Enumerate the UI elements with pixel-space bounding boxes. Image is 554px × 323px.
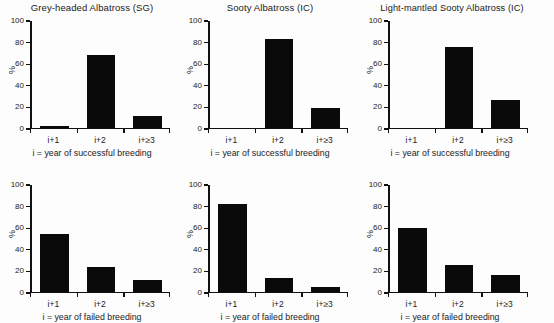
x-axis-line [30, 128, 170, 130]
bar [311, 108, 340, 127]
panel-sooty-albatross-ic-failed: % 020406080100i+1i+2i+≥3 i = year of fai… [178, 161, 362, 322]
y-axis-tick [384, 184, 388, 185]
x-axis-caption: i = year of successful breeding [0, 148, 184, 158]
x-axis-tick [435, 293, 436, 297]
y-axis-tick-label: 100 [369, 181, 382, 189]
y-axis-tick-label: 40 [373, 246, 382, 254]
x-axis-line [388, 292, 528, 294]
x-axis-tick [169, 293, 170, 297]
y-axis-tick-label: 40 [193, 82, 202, 90]
y-axis-tick-label: 60 [15, 60, 24, 68]
bar-group [32, 185, 171, 292]
y-axis-tick [26, 107, 30, 108]
bar [445, 265, 474, 292]
x-axis-tick [123, 129, 124, 133]
y-axis-tick [384, 107, 388, 108]
x-axis-line [388, 128, 528, 130]
x-axis-tick [123, 293, 124, 297]
x-axis-caption: i = year of failed breeding [178, 312, 362, 322]
y-axis-tick-label: 20 [373, 103, 382, 111]
x-axis-tick [208, 293, 209, 297]
y-axis-tick-label: 60 [193, 224, 202, 232]
y-axis-tick-label: 100 [11, 17, 24, 25]
y-axis-tick-label: 80 [15, 39, 24, 47]
x-axis-caption: i = year of successful breeding [358, 148, 542, 158]
bar [265, 39, 294, 128]
y-axis-tick-label: 0 [20, 289, 24, 297]
x-axis-tick-label: i+1 [48, 136, 60, 145]
bar [445, 47, 474, 127]
bar [87, 55, 116, 128]
x-axis-tick [301, 129, 302, 133]
x-axis-tick [527, 293, 528, 297]
y-axis-tick [384, 249, 388, 250]
x-axis-caption: i = year of failed breeding [358, 312, 542, 322]
x-axis-tick-label: i+2 [94, 300, 106, 309]
bar [311, 287, 340, 291]
plot-area: 020406080100i+1i+2i+≥3 [30, 21, 170, 129]
bar [491, 275, 520, 291]
y-axis-tick [384, 64, 388, 65]
y-axis-tick [384, 206, 388, 207]
x-axis-tick-label: i+≥3 [497, 136, 513, 145]
bar [40, 234, 69, 292]
y-axis-tick [26, 42, 30, 43]
x-axis-tick-label: i+1 [48, 300, 60, 309]
bar [265, 278, 294, 292]
y-axis-tick [26, 64, 30, 65]
y-axis-tick-label: 20 [373, 267, 382, 275]
x-axis-tick [388, 293, 389, 297]
y-axis-tick-label: 20 [193, 267, 202, 275]
bar [40, 126, 69, 127]
x-axis-caption: i = year of failed breeding [0, 312, 184, 322]
figure-bar-chart-grid: Grey-headed Albatross (SG) % 02040608010… [0, 0, 554, 323]
bar [398, 228, 427, 291]
plot-area: 020406080100i+1i+2i+≥3 [30, 185, 170, 293]
panel-light-mantled-sooty-albatross-ic-successful: Light-mantled Sooty Albatross (IC) % 020… [358, 0, 542, 161]
y-axis-tick-label: 100 [189, 181, 202, 189]
y-axis-tick-label: 20 [15, 103, 24, 111]
y-axis-tick [204, 20, 208, 21]
y-axis-tick [204, 228, 208, 229]
y-axis-tick [26, 20, 30, 21]
y-axis-tick [204, 271, 208, 272]
x-axis-tick [347, 129, 348, 133]
y-axis-tick-label: 100 [11, 181, 24, 189]
y-axis-tick [204, 85, 208, 86]
x-axis-tick [481, 129, 482, 133]
y-axis-tick-label: 40 [15, 82, 24, 90]
y-axis-tick [26, 206, 30, 207]
panel-sooty-albatross-ic-successful: Sooty Albatross (IC) % 020406080100i+1i+… [178, 0, 362, 161]
x-axis-tick-label: i+2 [272, 136, 284, 145]
x-axis-tick-label: i+≥3 [139, 136, 155, 145]
panel-title: Grey-headed Albatross (SG) [0, 2, 184, 14]
x-axis-tick-label: i+2 [452, 136, 464, 145]
x-axis-tick-label: i+1 [406, 300, 418, 309]
y-axis-tick-label: 60 [15, 224, 24, 232]
x-axis-tick [255, 129, 256, 133]
x-axis-tick [301, 293, 302, 297]
bar-group [210, 21, 349, 128]
x-axis-tick [388, 129, 389, 133]
panel-grey-headed-albatross-sg-failed: % 020406080100i+1i+2i+≥3 i = year of fai… [0, 161, 184, 322]
bar [133, 280, 162, 292]
y-axis-tick [26, 249, 30, 250]
x-axis-tick [77, 129, 78, 133]
x-axis-tick-label: i+1 [226, 300, 238, 309]
y-axis-tick-label: 60 [373, 60, 382, 68]
panel-light-mantled-sooty-albatross-ic-failed: % 020406080100i+1i+2i+≥3 i = year of fai… [358, 161, 542, 322]
x-axis-tick-label: i+2 [452, 300, 464, 309]
y-axis-tick-label: 80 [15, 203, 24, 211]
bar-group [390, 21, 529, 128]
y-axis-tick-label: 0 [378, 125, 382, 133]
y-axis-tick-label: 80 [193, 39, 202, 47]
y-axis-tick [204, 64, 208, 65]
y-axis-tick-label: 20 [193, 103, 202, 111]
y-axis-tick [26, 228, 30, 229]
y-axis-tick [384, 85, 388, 86]
y-axis-tick-label: 100 [189, 17, 202, 25]
y-axis-tick-label: 60 [193, 60, 202, 68]
y-axis-tick [26, 271, 30, 272]
y-axis-tick [384, 228, 388, 229]
x-axis-line [208, 292, 348, 294]
